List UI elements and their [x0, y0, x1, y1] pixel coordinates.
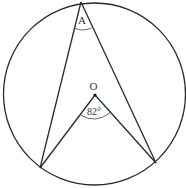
- radius-o-to-c: [95, 95, 156, 163]
- circle-diagram: A O 82°: [0, 0, 186, 188]
- chord-a-to-b: [40, 2, 81, 168]
- label-a: A: [78, 14, 86, 26]
- angle-arc-a: [75, 28, 92, 30]
- center-point-o: [93, 93, 96, 96]
- label-central-angle: 82°: [87, 106, 101, 117]
- label-o: O: [90, 80, 98, 92]
